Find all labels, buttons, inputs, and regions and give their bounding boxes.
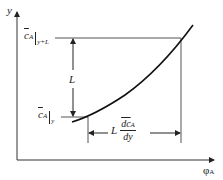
numerator-sub: A — [131, 121, 135, 129]
x-axis-label-sub: A — [209, 168, 214, 176]
numerator-text: dc — [121, 118, 130, 129]
vertical-dimension-label: L — [69, 74, 75, 85]
lower-level-eval-sub: y — [51, 117, 54, 125]
upper-level-eval-sub: y+L — [37, 38, 49, 46]
derivative-denominator: dy — [123, 131, 132, 142]
horizontal-dimension-label: L dcA dy — [111, 119, 136, 142]
concentration-gradient-diagram — [0, 0, 223, 180]
lower-level-sub: A — [43, 112, 47, 120]
derivative-numerator: dcA — [120, 119, 136, 131]
concentration-curve — [72, 25, 193, 122]
derivative-fraction: dcA dy — [120, 119, 136, 142]
upper-level-label: cAy+L — [24, 30, 49, 46]
y-axis-label: y — [7, 5, 12, 16]
x-axis-label: φA — [203, 165, 214, 176]
horizontal-dimension-prefix: L — [111, 125, 117, 136]
upper-level-sub: A — [29, 33, 33, 41]
vertical-dimension-text: L — [69, 73, 75, 85]
lower-level-label: cAy — [38, 109, 54, 125]
y-axis-label-text: y — [7, 4, 12, 16]
